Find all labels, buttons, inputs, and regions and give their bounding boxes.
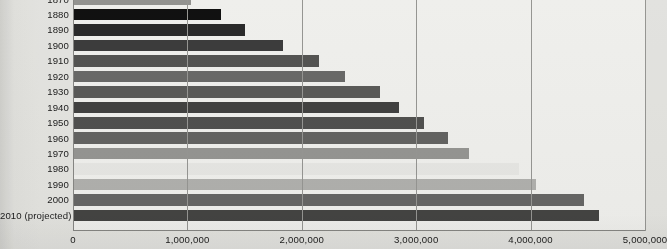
bar-series [73, 0, 645, 231]
y-axis-tick-label: 1900 [0, 40, 69, 51]
y-axis-tick-label: 1910 [0, 55, 69, 66]
x-axis-tick-label: 4,000,000 [508, 234, 552, 245]
y-axis-tick-label: 1880 [0, 9, 69, 20]
bar-1910 [73, 55, 319, 67]
bar-1970 [73, 148, 469, 160]
bar-2010-projected- [73, 210, 599, 222]
y-axis-tick-label: 1980 [0, 163, 69, 174]
y-axis-tick-label: 2000 [0, 194, 69, 205]
y-axis-tick-label: 1920 [0, 71, 69, 82]
bar-1980 [73, 163, 519, 175]
bar-1950 [73, 117, 424, 129]
y-axis-tick-label: 1990 [0, 179, 69, 190]
y-axis-tick-label: 1930 [0, 86, 69, 97]
plot-area [73, 0, 645, 231]
bar-2000 [73, 194, 584, 206]
y-axis-tick-label: 2010 (projected) [0, 210, 69, 221]
x-axis-tick-label: 0 [70, 234, 76, 245]
bar-1920 [73, 71, 345, 83]
horizontal-bar-chart: 1870188018901900191019201930194019501960… [0, 0, 667, 249]
y-axis-tick-label: 1950 [0, 117, 69, 128]
x-axis-tick-label: 3,000,000 [394, 234, 438, 245]
x-axis-baseline [73, 230, 645, 231]
x-axis-tick-label: 5,000,000 [623, 234, 667, 245]
y-axis-tick-label: 1960 [0, 133, 69, 144]
x-axis-tick-label: 1,000,000 [165, 234, 209, 245]
chart-screenshot: 1870188018901900191019201930194019501960… [0, 0, 667, 249]
bar-1990 [73, 179, 536, 191]
y-axis-tick-label: 1870 [0, 0, 69, 5]
bar-1960 [73, 132, 448, 144]
bar-1940 [73, 102, 399, 114]
y-axis-tick-label: 1890 [0, 24, 69, 35]
gridline-5000000 [645, 0, 646, 231]
population-axis-labels: 01,000,0002,000,0003,000,0004,000,0005,0… [0, 234, 667, 249]
y-axis-tick-label: 1970 [0, 148, 69, 159]
bar-1870 [73, 0, 191, 5]
x-axis-tick-label: 2,000,000 [280, 234, 324, 245]
bar-1880 [73, 9, 221, 21]
decade-axis-labels: 1870188018901900191019201930194019501960… [0, 0, 69, 231]
bar-1890 [73, 24, 245, 36]
bar-1900 [73, 40, 283, 52]
y-axis-tick-label: 1940 [0, 102, 69, 113]
bar-1930 [73, 86, 380, 98]
